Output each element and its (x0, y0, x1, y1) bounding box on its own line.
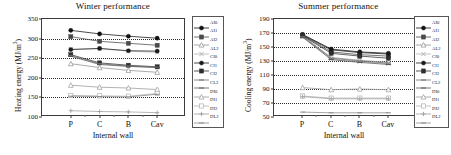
legend-key-ci0-icon (416, 53, 431, 61)
x-tick-label-p: P (300, 120, 304, 129)
panel-winter: Winter performance Heating energy (MJ/m3… (0, 0, 226, 155)
legend-label: CI1 (210, 63, 217, 68)
legend-summer: AI0AI1AI2AL2CI0CI1CI2CL2DI0DI1DI2DL2 (414, 16, 449, 128)
legend-item-al2[interactable]: AL2 (194, 44, 222, 53)
legend-label: AI2 (210, 37, 217, 42)
legend-item-di1[interactable]: DI1 (416, 95, 447, 104)
legend-item-di2[interactable]: DI2 (416, 104, 447, 113)
y-axis-label-close: ) (14, 39, 23, 42)
y-tick-label: 350 (28, 15, 43, 23)
legend-key-ci2-icon (194, 70, 209, 78)
legend-item-ai0[interactable]: AI0 (194, 18, 222, 27)
y-axis-label-close: ) (243, 39, 252, 42)
x-axis-label-summer: Internal wall (274, 131, 415, 140)
y-axis-label-exponent: 3 (242, 41, 248, 44)
y-axis-label-text: Heating energy (MJ/m (14, 44, 23, 112)
legend-item-dl2[interactable]: DL2 (416, 113, 447, 122)
legend-item-ai0[interactable]: AI0 (416, 18, 447, 27)
plot-area-winter: 100150200250300350PCBCav Internal wall (41, 18, 185, 116)
x-tick-label-b: B (126, 120, 131, 129)
legend-key-ai1-icon (416, 27, 431, 35)
y-tick-label: 250 (28, 54, 43, 62)
legend-label: DI0 (210, 89, 217, 94)
legend-label: AI2 (432, 37, 439, 42)
legend-key-di0-icon (194, 87, 209, 95)
legend-key-ai2-icon (416, 35, 431, 43)
legend-key-ai0-icon (194, 18, 209, 26)
legend-key-ci0-icon (194, 53, 209, 61)
legend-label: DI2 (432, 106, 439, 111)
legend-label: AL2 (210, 46, 219, 51)
legend-key-dl2-icon (416, 113, 431, 121)
legend-item-di1[interactable]: DI1 (194, 95, 222, 104)
legend-key-di0-icon (416, 87, 431, 95)
legend-key-ai1-icon (194, 27, 209, 35)
x-tick-label-b: B (357, 120, 362, 129)
y-tick-label: 90 (263, 85, 274, 93)
legend-key-di1-icon (194, 96, 209, 104)
legend-item-ci2[interactable]: CI2 (416, 70, 447, 79)
series-line-ai0 (71, 30, 157, 38)
series-line-ai2 (302, 36, 388, 63)
y-tick-label: 70 (263, 99, 274, 107)
legend-key-al2-icon (416, 44, 431, 52)
legend-item-ci0[interactable]: CI0 (194, 52, 222, 61)
legend-key-al2-icon (194, 44, 209, 52)
chart-title-winter: Winter performance (0, 1, 226, 11)
legend-key-ci2-icon (416, 70, 431, 78)
legend-item-ci2[interactable]: CI2 (194, 70, 222, 79)
legend-item-ci1[interactable]: CI1 (416, 61, 447, 70)
legend-item-di0[interactable]: DI0 (416, 87, 447, 96)
y-tick-label: 150 (259, 43, 274, 51)
x-tick-label-cav: Cav (151, 120, 164, 129)
legend-key-ci1-icon (416, 61, 431, 69)
legend-item-di2[interactable]: DI2 (194, 104, 222, 113)
legend-item-ai1[interactable]: AI1 (194, 27, 222, 36)
series-line-dl2 (302, 112, 388, 113)
y-tick-label: 150 (28, 93, 43, 101)
series-line-ai1 (71, 37, 157, 46)
legend-key-di1-icon (416, 96, 431, 104)
legend-label: AI1 (432, 28, 439, 33)
y-axis-label-text: Cooling energy (MJ/m (243, 44, 252, 112)
legend-item-ai2[interactable]: AI2 (194, 35, 222, 44)
series-lines-winter (42, 19, 186, 117)
series-line-di0 (71, 85, 157, 89)
legend-key-cl2-icon (194, 78, 209, 86)
x-tick-label-c: C (97, 120, 102, 129)
x-tick-label-cav: Cav (381, 120, 394, 129)
legend-item-ai2[interactable]: AI2 (416, 35, 447, 44)
legend-item-ci0[interactable]: CI0 (416, 52, 447, 61)
legend-winter: AI0AI1AI2AL2CI0CI1CI2CL2DI0DI1DI2DL2 (192, 16, 224, 128)
legend-label: DI1 (210, 97, 217, 102)
legend-label: AI0 (210, 20, 217, 25)
series-line-di2 (71, 111, 157, 113)
chart-title-summer: Summer performance (226, 1, 451, 11)
legend-key-di2-icon (194, 104, 209, 112)
x-tick-label-c: C (328, 120, 333, 129)
y-tick-label: 300 (28, 35, 43, 43)
legend-key-ai2-icon (194, 35, 209, 43)
legend-label: CI2 (210, 71, 217, 76)
y-tick-label: 170 (259, 29, 274, 37)
legend-label: DL2 (210, 114, 219, 119)
legend-label: CI1 (432, 63, 439, 68)
legend-key-cl2-icon (416, 78, 431, 86)
legend-item-al2[interactable]: AL2 (416, 44, 447, 53)
legend-item-dl2[interactable]: DL2 (194, 113, 222, 122)
y-tick-label: 110 (259, 71, 273, 79)
legend-key-dl2-icon (194, 113, 209, 121)
legend-label: AL2 (432, 46, 441, 51)
legend-item-cl2[interactable]: CL2 (194, 78, 222, 87)
legend-key-ai0-icon (416, 18, 431, 26)
legend-item-ai1[interactable]: AI1 (416, 27, 447, 36)
x-axis-label-winter: Internal wall (42, 131, 184, 140)
y-tick-label: 50 (263, 113, 274, 121)
legend-item-cl2[interactable]: CL2 (416, 78, 447, 87)
series-lines-summer (274, 19, 417, 117)
series-line-ci0 (302, 35, 388, 54)
legend-item-di0[interactable]: DI0 (194, 87, 222, 96)
panel-summer: Summer performance Cooling energy (MJ/m3… (226, 0, 451, 155)
legend-item-ci1[interactable]: CI1 (194, 61, 222, 70)
legend-label: DI1 (432, 97, 439, 102)
